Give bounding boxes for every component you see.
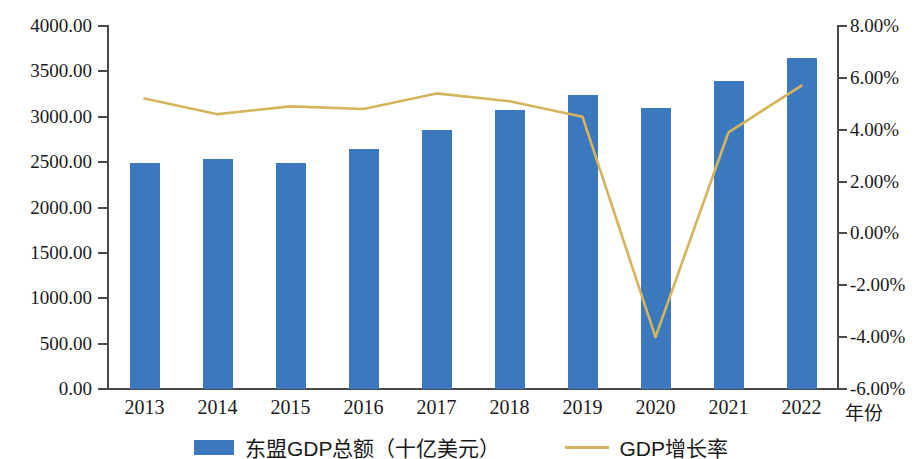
left-axis-tick-label: 3000.00 (0, 107, 92, 126)
left-axis-tick (98, 25, 107, 27)
x-axis-tick-label: 2018 (470, 396, 550, 419)
left-axis-tick (98, 207, 107, 209)
left-axis-tick-label: 3500.00 (0, 61, 92, 80)
right-axis-tick-label: -4.00% (850, 327, 922, 346)
x-axis-tick-label: 2016 (324, 396, 404, 419)
bar-2017 (422, 130, 452, 389)
left-axis-tick-label: 0.00 (0, 379, 92, 398)
right-axis-tick (838, 336, 847, 338)
left-axis-tick (98, 343, 107, 345)
left-axis-tick (98, 388, 107, 390)
left-axis-tick (98, 161, 107, 163)
bar-2014 (203, 159, 233, 389)
left-axis-tick (98, 297, 107, 299)
right-axis-tick (838, 181, 847, 183)
x-axis-tick-label: 2019 (543, 396, 623, 419)
x-axis-tick-label: 2021 (689, 396, 769, 419)
chart-legend: 东盟GDP总额（十亿美元） GDP增长率 (0, 432, 922, 459)
bar-2016 (349, 149, 379, 389)
bar-2022 (787, 58, 817, 389)
bar-2019 (568, 95, 598, 389)
x-axis-tick-label: 2014 (178, 396, 258, 419)
x-axis-tick-label: 2015 (251, 396, 331, 419)
bar-2015 (276, 163, 306, 389)
left-axis-tick-label: 2000.00 (0, 198, 92, 217)
legend-line-label: GDP增长率 (620, 432, 729, 459)
right-axis-tick-label: 6.00% (850, 68, 922, 87)
left-axis-tick-label: 2500.00 (0, 152, 92, 171)
right-axis-tick-label: 2.00% (850, 172, 922, 191)
right-axis-tick-label: 8.00% (850, 16, 922, 35)
right-axis-tick-label: 4.00% (850, 120, 922, 139)
right-axis-tick (838, 25, 847, 27)
left-axis-tick-label: 1500.00 (0, 243, 92, 262)
left-axis-tick (98, 70, 107, 72)
left-axis-tick (98, 116, 107, 118)
legend-line-swatch-icon (565, 446, 609, 449)
bar-2018 (495, 110, 525, 389)
left-axis-tick-label: 500.00 (0, 334, 92, 353)
left-axis-tick (98, 252, 107, 254)
legend-bar-label: 东盟GDP总额（十亿美元） (245, 432, 501, 459)
right-axis-tick (838, 284, 847, 286)
x-axis-tick-label: 2017 (397, 396, 477, 419)
legend-item-line[interactable]: GDP增长率 (565, 432, 729, 459)
bar-2013 (130, 163, 160, 389)
x-axis-tick-label: 2022 (762, 396, 842, 419)
legend-bar-swatch-icon (194, 440, 234, 455)
left-axis-line (107, 25, 109, 390)
right-axis-tick (838, 232, 847, 234)
right-axis-tick-label: 0.00% (850, 223, 922, 242)
bar-2020 (641, 108, 671, 389)
right-axis-tick (838, 77, 847, 79)
right-axis-tick (838, 388, 847, 390)
x-axis-tick-label: 2020 (616, 396, 696, 419)
legend-item-bar[interactable]: 东盟GDP总额（十亿美元） (194, 432, 501, 459)
left-axis-tick-label: 1000.00 (0, 288, 92, 307)
bar-2021 (714, 81, 744, 389)
right-axis-tick (838, 129, 847, 131)
gdp-chart: 0.00500.001000.001500.002000.002500.0030… (0, 0, 922, 459)
right-axis-tick-label: -2.00% (850, 275, 922, 294)
x-axis-tick-label: 2013 (105, 396, 185, 419)
right-axis-tick-label: -6.00% (850, 379, 922, 398)
growth-rate-polyline (145, 86, 802, 338)
left-axis-tick-label: 4000.00 (0, 16, 92, 35)
x-axis-title: 年份 (845, 398, 883, 425)
